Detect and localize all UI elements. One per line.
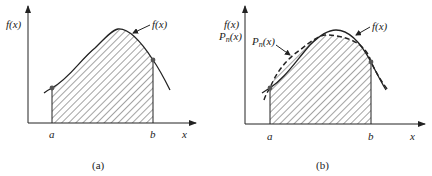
x-axis-label: x xyxy=(409,130,415,142)
caption-b: (b) xyxy=(316,159,329,172)
lower-limit-label: a xyxy=(49,128,55,140)
point-b xyxy=(369,60,374,65)
upper-limit-label: b xyxy=(150,128,156,140)
point-a xyxy=(50,86,55,91)
curve-label-pn: Pn(x) xyxy=(251,35,275,49)
point-b xyxy=(151,58,156,63)
point-a xyxy=(268,86,273,91)
panel-b: f(x) Pn(x) f(x) Pn(x) a b x (b) xyxy=(218,6,425,172)
fx-pointer-arrow xyxy=(133,25,150,33)
integration-diagram: f(x) f(x) a b x (a) f(x) Pn(x) f(x) Pn(x… xyxy=(0,0,432,176)
panel-a: f(x) f(x) a b x (a) xyxy=(6,6,196,172)
x-axis-label: x xyxy=(181,128,187,140)
curve-label-fx: f(x) xyxy=(372,20,388,33)
shaded-area-pn xyxy=(270,35,371,124)
pn-pointer-arrow xyxy=(276,45,290,55)
upper-limit-label: b xyxy=(368,130,374,142)
caption-a: (a) xyxy=(92,159,105,172)
y-axis-label: f(x) xyxy=(6,18,22,31)
curve-label: f(x) xyxy=(152,18,168,31)
lower-limit-label: a xyxy=(267,130,273,142)
fx-pointer-arrow xyxy=(356,27,370,35)
y-axis-label-pn: Pn(x) xyxy=(218,30,242,44)
